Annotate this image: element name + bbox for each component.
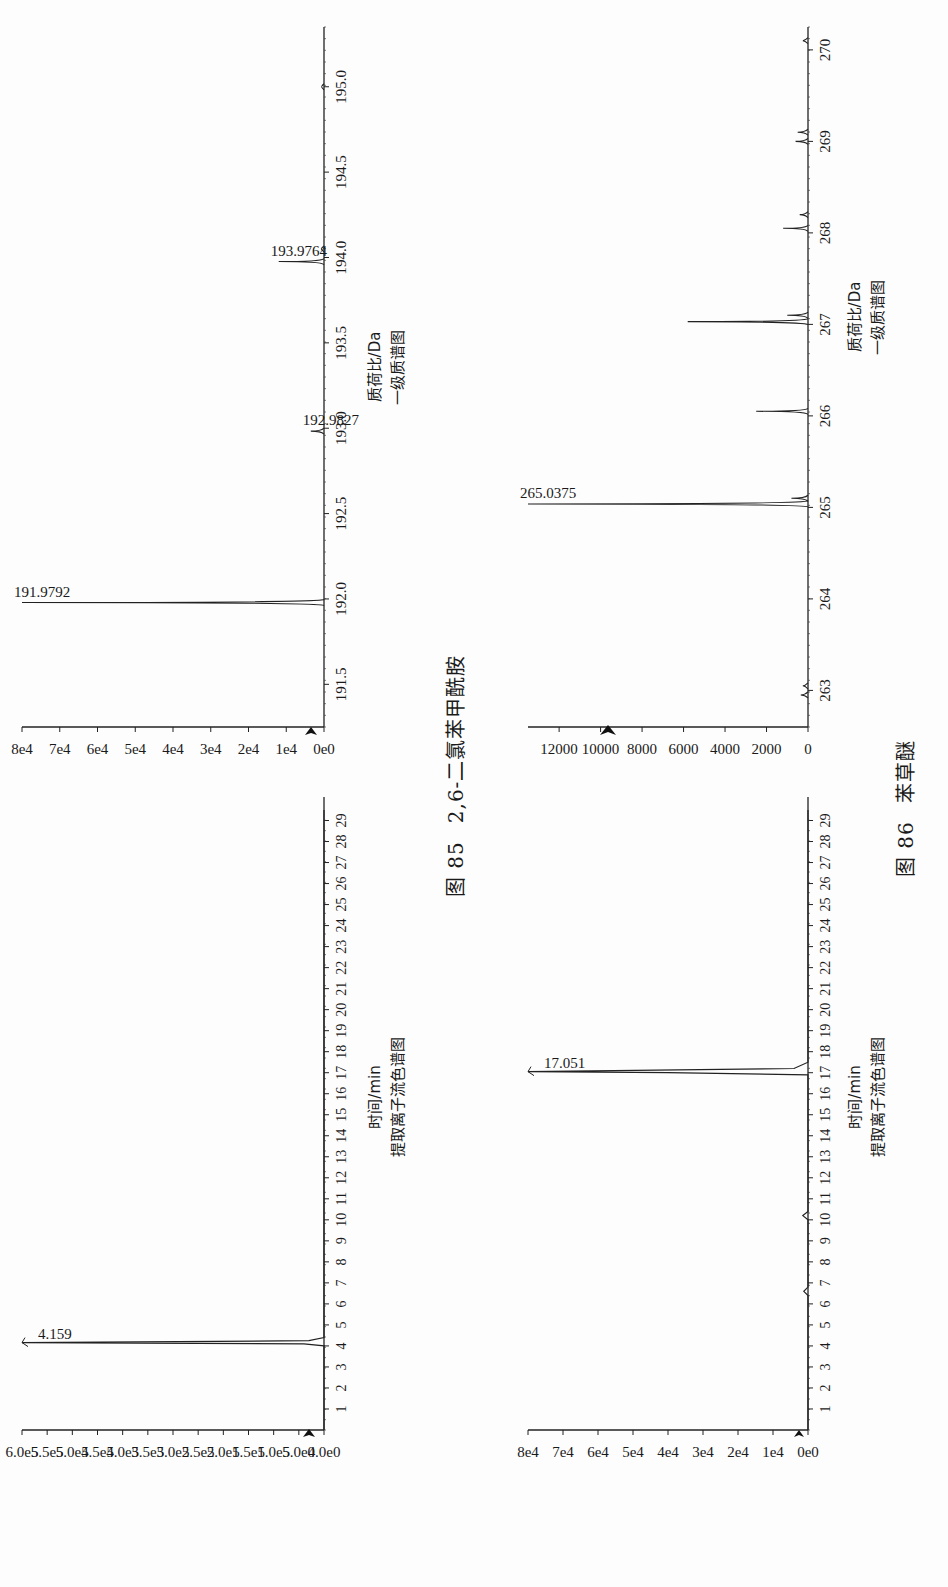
x-tick-label: 15 xyxy=(334,1108,349,1122)
chart-subtitle: 一级质谱图 xyxy=(389,330,407,405)
x-tick-label: 27 xyxy=(334,856,349,870)
x-axis-label: 时间/min xyxy=(366,1065,384,1128)
x-tick-label: 192.0 xyxy=(333,582,349,616)
x-tick-label: 194.5 xyxy=(333,155,349,189)
x-tick-label: 5 xyxy=(334,1321,349,1328)
peak-label: 17.051 xyxy=(544,1055,585,1071)
spectrum-peak xyxy=(798,129,808,135)
x-axis-ticks: 1234567891011121314151617181920212223242… xyxy=(324,814,349,1430)
figure-title: 苯草醚 xyxy=(894,740,918,803)
y-tick-label: 3e4 xyxy=(692,1444,714,1460)
y-tick-label: 0e0 xyxy=(797,1444,819,1460)
peak-labels: 191.9792192.9827193.9764 xyxy=(14,243,360,600)
x-tick-label: 1 xyxy=(818,1405,833,1412)
x-tick-label: 193.5 xyxy=(333,326,349,360)
figure-86-caption: 图 86苯草醚 xyxy=(890,740,919,877)
x-axis-label: 质荷比/Da xyxy=(366,332,384,403)
y-tick-label: 12000 xyxy=(540,741,578,757)
x-tick-label: 268 xyxy=(817,222,833,245)
x-tick-label: 6 xyxy=(334,1300,349,1307)
y-tick-label: 7e4 xyxy=(552,1444,574,1460)
y-tick-label: 1e4 xyxy=(762,1444,784,1460)
x-tick-label: 264 xyxy=(817,587,833,610)
x-tick-label: 18 xyxy=(334,1045,349,1059)
spectrum-peak xyxy=(803,683,808,689)
y-tick-label: 4e4 xyxy=(657,1444,679,1460)
y-axis-ticks: 0e01e42e43e44e45e46e47e48e4 xyxy=(11,727,335,757)
spectrum-peak xyxy=(783,225,808,231)
x-tick-label: 13 xyxy=(818,1150,833,1164)
arrow-marker-icon xyxy=(794,1430,804,1437)
x-tick-label: 19 xyxy=(334,1024,349,1038)
x-tick-label: 20 xyxy=(334,1003,349,1017)
x-tick-label: 17 xyxy=(334,1066,349,1080)
spectrum-peak xyxy=(279,259,324,265)
chart-subtitle: 提取离子流色谱图 xyxy=(389,1037,407,1157)
arrow-marker-icon xyxy=(305,727,317,735)
x-tick-label: 266 xyxy=(817,404,833,427)
y-tick-label: 4000 xyxy=(710,741,740,757)
x-tick-label: 195.0 xyxy=(333,70,349,104)
x-axis-ticks: 263264265266267268269270 xyxy=(808,27,833,727)
x-tick-label: 19 xyxy=(818,1024,833,1038)
x-tick-label: 24 xyxy=(818,919,833,933)
x-tick-label: 29 xyxy=(334,814,349,828)
x-tick-label: 11 xyxy=(334,1192,349,1205)
x-tick-label: 29 xyxy=(818,814,833,828)
figure-number: 图 85 xyxy=(444,841,468,897)
peak-label: 265.0375 xyxy=(520,485,576,501)
spectrum-peak xyxy=(801,692,808,698)
x-tick-label: 23 xyxy=(334,940,349,954)
x-tick-label: 10 xyxy=(818,1213,833,1227)
peak-label: 191.9792 xyxy=(14,584,70,600)
x-tick-label: 191.5 xyxy=(333,667,349,701)
y-tick-label: 2e4 xyxy=(727,1444,749,1460)
figure-number: 图 86 xyxy=(894,821,918,877)
peak-label: 4.159 xyxy=(38,1326,72,1342)
x-tick-label: 6 xyxy=(818,1300,833,1307)
y-tick-label: 0 xyxy=(804,741,812,757)
y-tick-label: 8000 xyxy=(627,741,657,757)
x-tick-label: 7 xyxy=(818,1279,833,1286)
x-tick-label: 265 xyxy=(817,496,833,519)
x-axis-label: 时间/min xyxy=(846,1065,864,1128)
x-tick-label: 270 xyxy=(817,39,833,62)
x-tick-label: 263 xyxy=(817,679,833,702)
x-tick-label: 25 xyxy=(334,898,349,912)
y-tick-label: 6.0e5 xyxy=(6,1444,39,1460)
x-tick-label: 10 xyxy=(334,1213,349,1227)
x-tick-label: 24 xyxy=(334,919,349,933)
x-tick-label: 7 xyxy=(334,1279,349,1286)
spectrum-peak xyxy=(803,38,808,44)
spectrum-peak xyxy=(311,428,324,434)
x-tick-label: 13 xyxy=(334,1150,349,1164)
x-tick-label: 3 xyxy=(818,1363,833,1370)
x-tick-label: 26 xyxy=(818,877,833,891)
spectrum-peak xyxy=(756,408,808,414)
x-tick-label: 267 xyxy=(817,313,833,336)
x-tick-label: 9 xyxy=(818,1237,833,1244)
figure-85-mass-spectrum: 0e01e42e43e44e45e46e47e48e4 191.5192.019… xyxy=(0,0,440,797)
y-axis-ticks: 020004000600080001000012000 xyxy=(540,727,811,757)
chart-subtitle: 一级质谱图 xyxy=(869,280,887,355)
y-tick-label: 3e4 xyxy=(200,741,222,757)
spectrum-peak xyxy=(796,138,808,144)
y-tick-label: 8e4 xyxy=(11,741,33,757)
spectrum-peak xyxy=(22,600,324,606)
spectrum-peaks xyxy=(22,84,324,606)
x-tick-label: 16 xyxy=(334,1087,349,1101)
x-tick-label: 15 xyxy=(818,1108,833,1122)
x-tick-label: 5 xyxy=(818,1321,833,1328)
document-page: 0.0e05.0e41.0e51.5e52.0e52.5e53.0e53.5e5… xyxy=(0,0,948,1587)
x-tick-label: 2 xyxy=(334,1384,349,1391)
x-tick-label: 9 xyxy=(334,1237,349,1244)
y-tick-label: 6e4 xyxy=(587,1444,609,1460)
spectrum-peak xyxy=(688,319,808,325)
x-tick-label: 28 xyxy=(818,835,833,849)
x-tick-label: 14 xyxy=(334,1129,349,1143)
spectrum-peak xyxy=(791,495,808,501)
x-tick-label: 269 xyxy=(817,130,833,153)
x-tick-label: 8 xyxy=(818,1258,833,1265)
x-tick-label: 17 xyxy=(818,1066,833,1080)
x-tick-label: 21 xyxy=(334,982,349,996)
